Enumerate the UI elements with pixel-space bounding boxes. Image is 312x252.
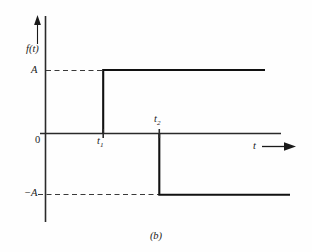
y-tick-label-negative-a: −A bbox=[24, 188, 38, 199]
waveform-trace-lower bbox=[159, 134, 290, 195]
x-axis-label: t bbox=[253, 141, 256, 152]
x-tick-label-t1-subscript: 1 bbox=[100, 141, 104, 149]
x-axis-arrow-head bbox=[284, 142, 296, 151]
y-axis-label: f(t) bbox=[26, 44, 39, 55]
waveform-trace bbox=[103, 70, 265, 134]
x-tick-label-t2: t2 bbox=[154, 114, 160, 127]
x-tick-label-t1: t1 bbox=[97, 136, 103, 149]
figure-caption: (b) bbox=[0, 230, 312, 241]
y-tick-label-positive-a: A bbox=[31, 65, 37, 76]
origin-label: 0 bbox=[35, 135, 40, 146]
figure-container: f(t) A −A 0 t1 t2 t (b) bbox=[0, 0, 312, 252]
x-tick-label-t2-subscript: 2 bbox=[157, 119, 161, 127]
y-axis-arrow-head bbox=[34, 15, 41, 25]
